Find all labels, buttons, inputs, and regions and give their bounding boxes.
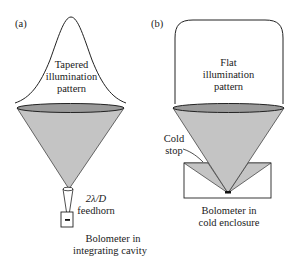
tapered-pattern-line-2: illumination xyxy=(44,71,99,83)
bolometer-a xyxy=(65,219,70,221)
feedhorn-mouth xyxy=(63,187,73,191)
panel-b-tag: (b) xyxy=(151,18,163,29)
flat-pattern-line-1: Flat xyxy=(201,57,256,69)
bolometer-cavity-line-2: integrating cavity xyxy=(72,245,148,257)
feedhorn-label: 2λ/D feedhorn xyxy=(76,193,116,217)
bolometer-b xyxy=(225,191,231,194)
feedhorn-body xyxy=(63,189,73,212)
feedhorn-text: feedhorn xyxy=(76,205,116,217)
flat-pattern-label: Flat illumination pattern xyxy=(201,57,256,93)
bolometer-cavity-line-1: Bolometer in xyxy=(78,233,148,245)
flat-pattern-line-3: pattern xyxy=(201,81,256,93)
panel-a-tag: (a) xyxy=(15,18,27,29)
bolometer-enclosure-line-2: cold enclosure xyxy=(190,217,268,229)
feedhorn-math: 2λ/D xyxy=(76,193,116,205)
cold-stop-line-2: stop xyxy=(160,145,188,157)
cold-stop-line-1: Cold xyxy=(160,133,188,145)
aperture-ellipse-a xyxy=(17,104,124,113)
aperture-ellipse-b xyxy=(173,104,284,113)
flat-pattern-line-2: illumination xyxy=(201,69,256,81)
beam-cone-a xyxy=(17,108,124,189)
cold-stop-label: Cold stop xyxy=(160,133,188,157)
tapered-pattern-line-1: Tapered xyxy=(44,59,99,71)
bolometer-cavity-label: Bolometer in integrating cavity xyxy=(72,233,148,257)
panel-b-graphics xyxy=(173,20,284,198)
bolometer-enclosure-line-1: Bolometer in xyxy=(190,205,268,217)
bolometer-enclosure-label: Bolometer in cold enclosure xyxy=(190,205,268,229)
tapered-pattern-label: Tapered illumination pattern xyxy=(44,59,99,95)
tapered-pattern-line-3: pattern xyxy=(44,83,99,95)
